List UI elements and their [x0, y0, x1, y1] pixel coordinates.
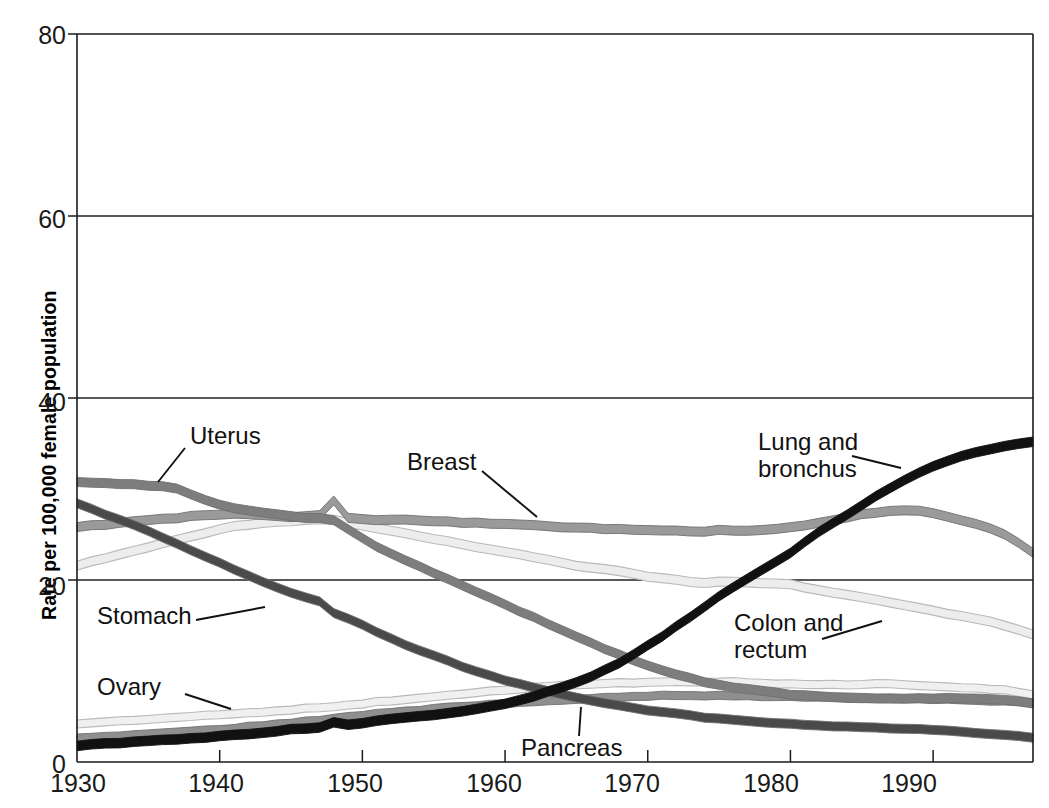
series-label-colon-line1: Colon and: [734, 609, 843, 636]
series-label-ovary: Ovary: [97, 673, 161, 700]
series-label-uterus: Uterus: [190, 422, 261, 449]
y-tick-40: 40: [6, 388, 66, 417]
series-label-colon-line2: rectum: [734, 636, 843, 663]
leader-line-breast: [482, 471, 537, 517]
series-label-breast: Breast: [407, 448, 476, 475]
x-tick-1980: 1980: [726, 769, 816, 798]
leader-line-pancreas: [579, 707, 581, 736]
series-ribbon-colon-and-rectum: [77, 515, 1033, 639]
x-tick-1940: 1940: [171, 769, 261, 798]
y-tick-20: 20: [6, 572, 66, 601]
x-tick-1990: 1990: [864, 769, 954, 798]
leader-line-ovary: [185, 694, 231, 709]
y-tick-60: 60: [6, 205, 66, 234]
cancer-mortality-chart-figure: Rate per 100,000 female population 80 60…: [0, 0, 1049, 808]
x-tick-1970: 1970: [587, 769, 677, 798]
y-axis-label: Rate per 100,000 female population: [38, 290, 61, 620]
series-label-stomach: Stomach: [97, 602, 192, 629]
series-label-colon-and-rectum: Colon and rectum: [734, 609, 843, 663]
series-label-lung-line1: Lung and: [758, 428, 858, 455]
x-tick-1950: 1950: [310, 769, 400, 798]
series-label-lung-and-bronchus: Lung and bronchus: [758, 428, 858, 482]
series-label-pancreas: Pancreas: [521, 734, 622, 761]
x-tick-1930: 1930: [33, 769, 123, 798]
leader-line-uterus: [158, 448, 185, 482]
leader-line-lung: [852, 456, 901, 468]
series-ribbons: [77, 437, 1033, 751]
x-tick-1960: 1960: [449, 769, 539, 798]
series-label-lung-line2: bronchus: [758, 455, 858, 482]
y-tick-80: 80: [6, 21, 66, 50]
leader-line-stomach: [196, 607, 265, 620]
